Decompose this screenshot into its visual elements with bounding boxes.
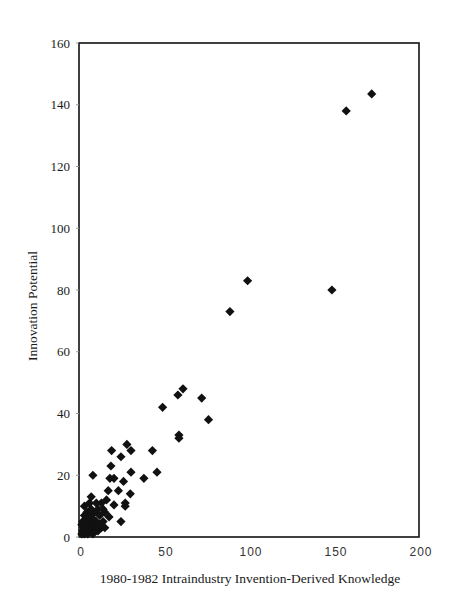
data-point-diamond (106, 461, 115, 470)
data-point-diamond (197, 393, 206, 402)
data-point-diamond (243, 276, 252, 285)
data-point-diamond (225, 307, 234, 316)
data-point-diamond (109, 500, 118, 509)
y-tick-label: 100 (51, 221, 71, 236)
x-axis-label: 1980-1982 Intraindustry Invention-Derive… (100, 571, 400, 586)
x-tick-label: 200 (409, 545, 432, 559)
x-axis-ticks: 050100150200 (77, 545, 432, 559)
y-tick-label: 160 (51, 36, 71, 51)
x-tick-label: 0 (77, 545, 85, 559)
data-point-diamond (342, 106, 351, 115)
y-tick-label: 60 (57, 344, 70, 359)
x-tick-label: 50 (158, 545, 173, 559)
data-point-diamond (327, 285, 336, 294)
y-axis-label: Innovation Potential (25, 251, 40, 361)
data-point-diamond (104, 486, 113, 495)
y-tick-label: 20 (57, 468, 70, 483)
data-point-diamond (152, 468, 161, 477)
data-point-diamond (204, 415, 213, 424)
data-point-diamond (178, 384, 187, 393)
x-tick-label: 100 (239, 545, 262, 559)
data-point-diamond (116, 452, 125, 461)
data-point-diamond (148, 446, 157, 455)
data-point-diamond (139, 474, 148, 483)
data-point-diamond (119, 477, 128, 486)
data-point-diamond (367, 89, 376, 98)
data-points (77, 89, 376, 538)
y-tick-label: 0 (64, 530, 71, 545)
y-axis-ticks: 020406080100120140160 (51, 36, 80, 545)
y-tick-label: 120 (51, 159, 71, 174)
y-tick-label: 140 (51, 97, 71, 112)
data-point-diamond (158, 403, 167, 412)
data-point-diamond (116, 517, 125, 526)
data-point-diamond (173, 390, 182, 399)
data-point-diamond (126, 489, 135, 498)
data-point-diamond (107, 446, 116, 455)
data-point-diamond (88, 471, 97, 480)
plot-frame (79, 43, 419, 537)
x-tick-label: 150 (324, 545, 347, 559)
scatter-chart: 020406080100120140160 050100150200 1980-… (0, 0, 456, 609)
data-point-diamond (114, 486, 123, 495)
y-tick-label: 80 (57, 283, 70, 298)
y-tick-label: 40 (57, 406, 70, 421)
data-point-diamond (126, 468, 135, 477)
